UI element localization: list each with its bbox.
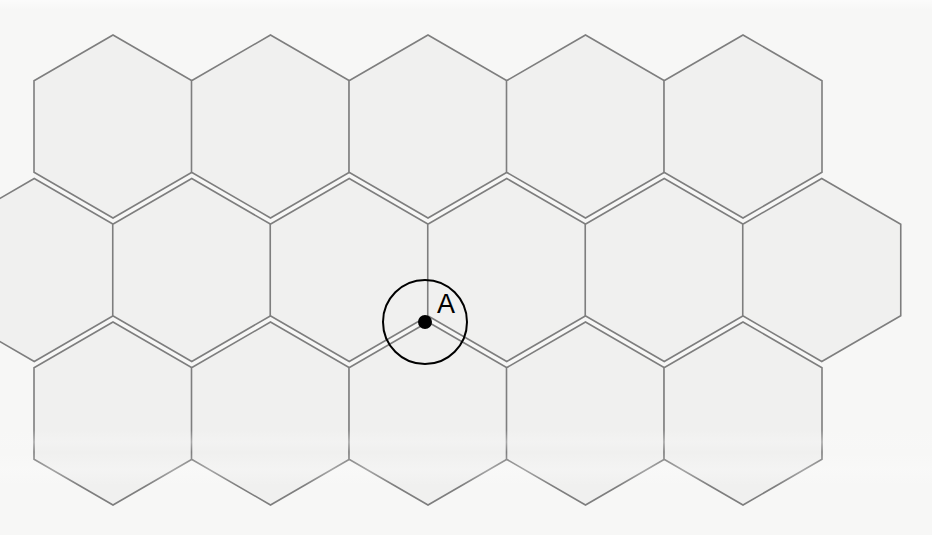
point-a-dot — [418, 315, 432, 329]
hexagon-tiling-canvas: A — [0, 0, 932, 535]
hexagon-grid-layer — [0, 35, 901, 505]
point-a-label: A — [437, 289, 455, 319]
hexagon-figure: A — [0, 0, 932, 535]
